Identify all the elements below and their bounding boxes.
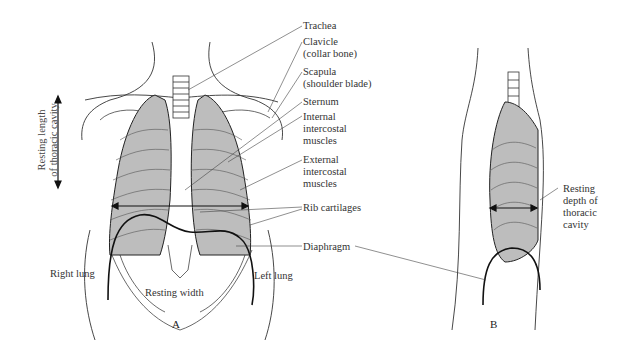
label-diaphragm: Diaphragm	[303, 241, 350, 253]
label-sternum: Sternum	[303, 96, 339, 108]
panel-b-lung	[490, 102, 538, 262]
label-scapula: Scapula (shoulder blade)	[303, 66, 372, 90]
resting-length-label: Resting length of thoracic cavity	[36, 98, 60, 182]
label-external-intercostal: External intercostal muscles	[303, 154, 347, 190]
label-resting-depth: Resting depth of thoracic cavity	[563, 183, 598, 231]
label-clavicle: Clavicle (collar bone)	[303, 36, 357, 60]
label-right-lung: Right lung	[50, 268, 95, 280]
label-resting-width: Resting width	[145, 287, 204, 299]
panel-label-b: B	[490, 318, 497, 330]
label-trachea: Trachea	[303, 20, 336, 32]
panel-label-a: A	[172, 318, 180, 330]
label-left-lung: Left lung	[254, 270, 293, 282]
label-internal-intercostal: Internal intercostal muscles	[303, 111, 347, 147]
trachea-shape	[173, 76, 189, 118]
label-rib-cartilages: Rib cartilages	[303, 202, 361, 214]
